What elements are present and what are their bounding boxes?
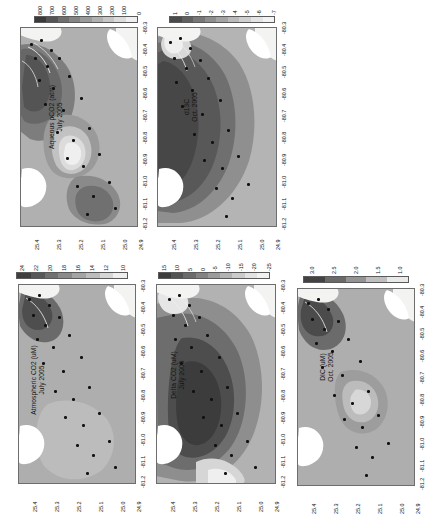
axis-tick-longitude: -80.3	[419, 284, 425, 296]
panel-title-d13c: d13C Oct. 2005	[183, 72, 199, 142]
axis-tick-latitude: 25.4	[170, 502, 176, 513]
axis-tick-latitude: 25.4	[34, 240, 40, 251]
cbtick: -25	[266, 263, 272, 271]
axis-tick-longitude: -81.1	[142, 198, 148, 210]
axis-tick-latitude: 25.0	[399, 504, 405, 515]
axis-tick-longitude: -81.2	[140, 476, 146, 488]
panel-title-delta-co2: Delta CO2 (uM) July 2005	[170, 332, 186, 418]
station-dot	[58, 57, 61, 60]
axis-tick-longitude: -80.5	[419, 328, 425, 340]
axis-tick-latitude: 25.2	[78, 240, 84, 251]
station-dot	[38, 294, 41, 297]
axis-tick-latitude: 24.9	[275, 240, 281, 251]
axis-tick-longitude: -81.1	[140, 456, 146, 468]
cbtick: -4	[232, 10, 238, 15]
station-dot	[236, 412, 239, 415]
station-dot	[80, 97, 83, 100]
station-dot	[206, 334, 209, 337]
axis-tick-longitude: -81.0	[142, 176, 148, 188]
panel-title-dic: DIC (uM) Oct. 2005	[319, 336, 335, 398]
station-dot	[40, 39, 43, 42]
station-dot	[175, 81, 178, 84]
station-dot	[189, 47, 192, 50]
cbtick: 700	[49, 6, 55, 15]
cbtick: 1	[172, 12, 178, 15]
axis-tick-longitude: -80.7	[280, 368, 286, 380]
station-dot	[387, 442, 390, 445]
station-dot	[179, 37, 182, 40]
panel-delta-co2-july: 15 10 5 0 -5 -10 -15 -20 -25	[148, 258, 283, 520]
station-dot	[337, 320, 340, 323]
cbtick: -3	[220, 10, 226, 15]
axis-tick-longitude: -80.5	[280, 324, 286, 336]
station-dot	[46, 65, 49, 68]
axis-tick-longitude: -80.4	[280, 302, 286, 314]
cbtick: 2.5	[331, 267, 337, 275]
axis-tick-longitude: -80.6	[281, 88, 287, 100]
station-dot	[184, 324, 187, 327]
station-dot	[185, 67, 188, 70]
station-dot	[341, 374, 344, 377]
panel-dic-oct: 3.0 2.5 2.0 1.5 1.0	[295, 258, 443, 520]
axis-tick-longitude: -80.7	[281, 110, 287, 122]
station-dot	[307, 302, 310, 305]
station-dot	[246, 440, 249, 443]
cbtick: 5	[187, 268, 193, 271]
station-dot	[367, 390, 370, 393]
axis-tick-longitude: -81.0	[281, 176, 287, 188]
axis-tick-longitude: -81.2	[419, 478, 425, 490]
map-aqueous-pco2	[20, 27, 138, 227]
axis-tick-longitude: -81.0	[140, 434, 146, 446]
axis-tick-latitude: 25.1	[100, 240, 106, 251]
panel-title-aqueous-pco2: Aqueous pCO2 (atm) July 2005	[48, 72, 64, 162]
cbtick: 0	[200, 268, 206, 271]
station-dot	[64, 416, 67, 419]
axis-tick-latitude: 25.3	[56, 240, 62, 251]
station-dot	[50, 49, 53, 52]
panel-title-line2: July 2005	[38, 330, 46, 430]
axis-tick-latitude: 25.3	[193, 240, 199, 251]
station-dot	[54, 390, 57, 393]
axis-tick-longitude: -80.3	[281, 22, 287, 34]
station-dot	[62, 370, 65, 373]
axis-tick-longitude: -80.9	[140, 412, 146, 424]
station-dot	[72, 139, 75, 142]
station-dot	[169, 41, 172, 44]
axis-tick-longitude: -80.5	[140, 324, 146, 336]
colorbar-delta-co2	[158, 272, 270, 279]
station-dot	[32, 314, 35, 317]
axis-tick-longitude: -81.2	[280, 476, 286, 488]
panel-title-line2: Oct. 2005	[327, 336, 335, 398]
station-dot	[327, 308, 330, 311]
cbtick: 400	[85, 6, 91, 15]
cbtick: 12	[103, 265, 109, 271]
station-dot	[218, 356, 221, 359]
axis-tick-longitude: -80.7	[419, 372, 425, 384]
station-dot	[86, 213, 89, 216]
station-dot	[114, 207, 117, 210]
station-dot	[371, 456, 374, 459]
cbtick: 0	[136, 12, 142, 15]
station-dot	[365, 474, 368, 477]
cbtick: 100	[121, 6, 127, 15]
axis-tick-longitude: -81.1	[280, 456, 286, 468]
map-dic	[297, 288, 415, 486]
station-dot	[92, 195, 95, 198]
station-dot	[359, 360, 362, 363]
cbtick: 2.0	[353, 267, 359, 275]
station-dot	[30, 43, 33, 46]
cbtick: -5	[212, 266, 218, 271]
station-dot	[247, 183, 250, 186]
axis-tick-longitude: -80.7	[142, 110, 148, 122]
axis-tick-latitude: 24.9	[415, 504, 421, 515]
axis-tick-latitude: 25.1	[237, 240, 243, 251]
station-dot	[323, 328, 326, 331]
axis-tick-latitude: 25.2	[214, 502, 220, 513]
cbtick: 22	[33, 265, 39, 271]
cbtick: -6	[256, 10, 262, 15]
station-dot	[68, 334, 71, 337]
station-dot	[188, 304, 191, 307]
map-d13c	[157, 27, 277, 227]
axis-tick-longitude: -80.8	[280, 390, 286, 402]
station-dot	[92, 454, 95, 457]
